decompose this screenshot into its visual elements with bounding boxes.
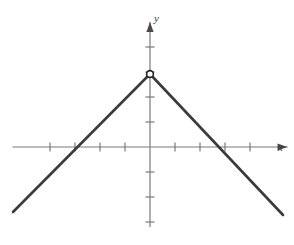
x-axis-label: x [277, 141, 283, 153]
y-axis-label: y [153, 12, 159, 24]
vertex-point-marker [147, 71, 154, 78]
coordinate-plane: y x [0, 0, 294, 245]
graph-figure: y x [0, 0, 294, 245]
vertex-marker-layer [147, 71, 154, 78]
